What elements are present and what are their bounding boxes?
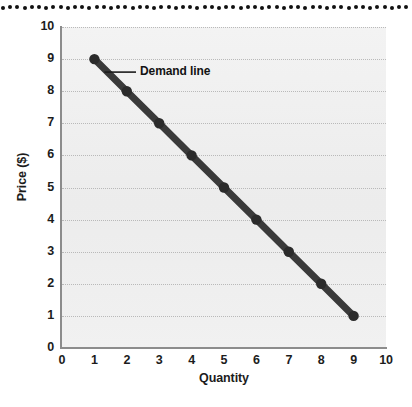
y-tick-label-9: 9 bbox=[28, 51, 54, 65]
x-tick-label-7: 7 bbox=[279, 353, 299, 367]
y-tick-label-8: 8 bbox=[28, 83, 54, 97]
gridline-y-3 bbox=[62, 252, 386, 254]
gridline-y-6 bbox=[62, 155, 386, 157]
gridline-y-10 bbox=[62, 27, 386, 29]
x-tick-label-9: 9 bbox=[344, 353, 364, 367]
gridline-y-7 bbox=[62, 123, 386, 125]
gridline-y-2 bbox=[62, 284, 386, 286]
x-tick-label-4: 4 bbox=[182, 353, 202, 367]
x-tick-label-10: 10 bbox=[376, 353, 396, 367]
x-tick-label-3: 3 bbox=[149, 353, 169, 367]
y-tick-label-10: 10 bbox=[28, 19, 54, 33]
x-axis-title: Quantity bbox=[62, 371, 386, 385]
y-tick-label-0: 0 bbox=[28, 340, 54, 354]
y-tick-label-2: 2 bbox=[28, 276, 54, 290]
gridline-y-8 bbox=[62, 91, 386, 93]
y-tick-label-3: 3 bbox=[28, 244, 54, 258]
x-tick-label-5: 5 bbox=[214, 353, 234, 367]
x-tick-label-2: 2 bbox=[117, 353, 137, 367]
gridline-y-9 bbox=[62, 59, 386, 61]
y-tick-label-6: 6 bbox=[28, 147, 54, 161]
y-tick-label-5: 5 bbox=[28, 180, 54, 194]
y-tick-label-4: 4 bbox=[28, 212, 54, 226]
demand-curve-figure: 012345678910 012345678910 Demand line Qu… bbox=[0, 0, 412, 407]
x-tick-label-8: 8 bbox=[311, 353, 331, 367]
gridline-y-1 bbox=[62, 316, 386, 318]
gridline-y-5 bbox=[62, 188, 386, 190]
x-tick-label-1: 1 bbox=[84, 353, 104, 367]
x-axis-spine bbox=[60, 347, 387, 349]
x-tick-label-6: 6 bbox=[246, 353, 266, 367]
y-axis-title: Price ($) bbox=[15, 137, 29, 217]
y-tick-label-7: 7 bbox=[28, 115, 54, 129]
y-tick-label-1: 1 bbox=[28, 308, 54, 322]
annotation-demand-line-label: Demand line bbox=[140, 64, 210, 78]
x-tick-label-0: 0 bbox=[52, 353, 72, 367]
gridline-y-4 bbox=[62, 220, 386, 222]
